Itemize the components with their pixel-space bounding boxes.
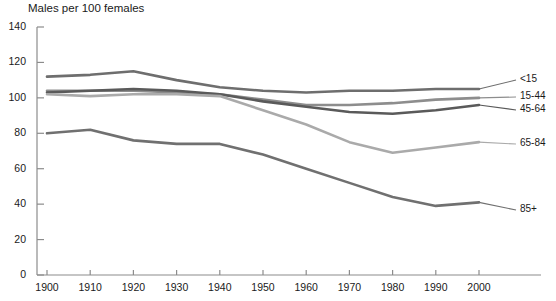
x-axis-tick-label: 1970 [329,281,369,293]
x-axis-tick-label: 1930 [157,281,197,293]
series-line [47,94,479,152]
series-label--15: <15 [520,73,537,84]
x-axis-tick-label: 1980 [373,281,413,293]
y-axis-tick-label: 0 [2,268,26,280]
x-axis-tick-label: 1990 [416,281,456,293]
series-leader-line [479,97,516,98]
chart-root: Males per 100 females 020406080100120140… [0,0,556,301]
y-axis-tick-label: 20 [2,233,26,245]
x-axis-tick-label: 1900 [27,281,67,293]
series-leader-line [479,202,516,210]
series-leader-line [479,105,516,110]
series-group [47,71,479,206]
line-chart-plot [0,0,556,301]
series-leader-line [479,80,516,89]
x-axis-tick-label: 1920 [113,281,153,293]
y-axis-tick-label: 140 [2,20,26,32]
series-label-45-64: 45-64 [520,103,546,114]
series-line [47,130,479,206]
y-axis-tick-label: 60 [2,162,26,174]
y-axis-tick-label: 120 [2,55,26,67]
y-axis-tick-label: 40 [2,197,26,209]
axes-group [37,27,541,275]
series-line [47,91,479,105]
series-leader-line [479,142,516,144]
x-axis-tick-label: 1950 [243,281,283,293]
x-axis-tick-label: 1910 [70,281,110,293]
series-label-15-44: 15-44 [520,90,546,101]
series-label-65-84: 65-84 [520,137,546,148]
x-axis-tick-label: 1960 [286,281,326,293]
x-axis-tick-label: 1940 [200,281,240,293]
x-axis-tick-label: 2000 [459,281,499,293]
leader-lines-group [479,80,516,210]
y-axis-tick-label: 80 [2,126,26,138]
y-axis-tick-label: 100 [2,91,26,103]
series-label-85-: 85+ [520,203,537,214]
